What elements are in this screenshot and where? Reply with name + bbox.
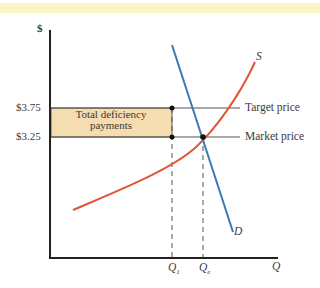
qe-subscript: e	[207, 268, 210, 276]
price-tick-325: $3.25	[16, 130, 41, 142]
market-q1-point	[170, 135, 175, 140]
market-price-label: Market price	[245, 130, 304, 142]
deficiency-payment-diagram	[0, 0, 320, 288]
equilibrium-point	[200, 134, 206, 140]
target-q1-point	[170, 106, 175, 111]
x-axis-label: Q	[272, 260, 280, 272]
target-price-label: Target price	[245, 101, 300, 113]
deficiency-label: Total deficiency payments	[52, 109, 170, 131]
y-axis-label: $	[37, 22, 43, 34]
supply-label: S	[256, 50, 262, 62]
demand-label: D	[234, 225, 242, 237]
qe-label: Qe	[199, 261, 210, 276]
price-tick-375: $3.75	[16, 101, 41, 113]
q1-label: Q1	[168, 261, 180, 276]
q1-subscript: 1	[176, 268, 180, 276]
deficiency-label-line2: payments	[52, 120, 170, 131]
